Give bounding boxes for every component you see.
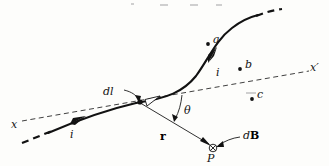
axis-left-label: x: [11, 118, 18, 131]
physics-diagram-figure: i i dl r θ: [0, 0, 329, 166]
point-a-label: a: [213, 33, 220, 46]
r-vector-label: r: [160, 130, 166, 143]
current-arrow-lower: [70, 116, 86, 125]
current-element-marker: [137, 96, 160, 106]
field-point-b: b: [238, 58, 252, 71]
diagram-canvas: i i dl r θ: [0, 0, 329, 166]
theta-label: θ: [184, 104, 191, 117]
into-page-symbol: [209, 144, 217, 152]
point-c-label: c: [257, 88, 263, 101]
field-point-a: a: [206, 33, 219, 46]
field-point-c: c: [250, 88, 263, 101]
axis-right-label: x′: [310, 61, 319, 74]
current-carrying-wire: [22, 9, 282, 143]
point-p-label: P: [206, 152, 215, 165]
element-leader-arrow: [124, 90, 141, 103]
field-leader-arrow: [216, 137, 240, 147]
point-b-label: b: [245, 58, 252, 71]
element-label: dl: [103, 85, 114, 98]
current-label-upper: i: [216, 66, 220, 79]
field-label: dB: [243, 129, 259, 142]
r-vector-arrow: [142, 104, 211, 146]
current-label-lower: i: [70, 128, 74, 141]
theta-angle-arc: [172, 95, 182, 122]
